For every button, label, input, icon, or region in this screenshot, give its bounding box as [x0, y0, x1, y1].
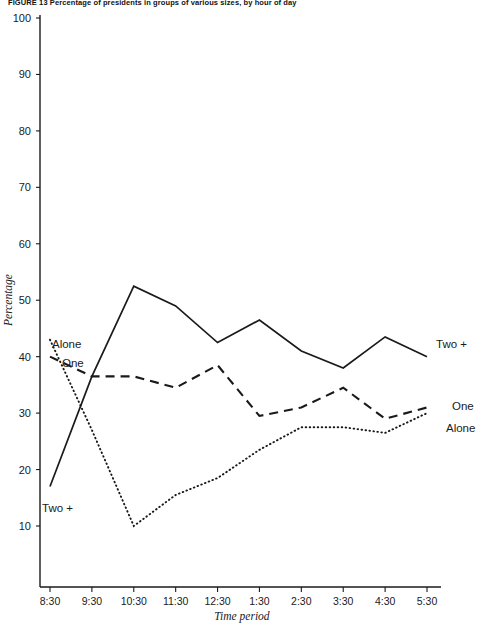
y-tick-label: 20 — [19, 464, 31, 476]
x-axis-title: Time period — [214, 610, 270, 623]
chart-svg: 100908070605040302010 8:309:3010:3011:30… — [0, 0, 484, 632]
series-line-two — [50, 286, 427, 486]
series-line-alone — [50, 340, 427, 526]
chart-plot-area: 100908070605040302010 8:309:3010:3011:30… — [0, 0, 484, 632]
x-tick-label: 10:30 — [121, 595, 147, 607]
y-tick-label: 100 — [13, 12, 31, 24]
y-axis-title: Percentage — [2, 274, 15, 327]
series-line-one — [50, 357, 427, 419]
x-tick-label: 5:30 — [417, 595, 438, 607]
x-tick-label: 2:30 — [291, 595, 312, 607]
x-tick-label: 9:30 — [82, 595, 103, 607]
y-tick-label: 90 — [19, 68, 31, 80]
series-label-one-right: One — [452, 400, 474, 412]
y-tick-label: 50 — [19, 294, 31, 306]
series-label-alone-left: Alone — [52, 338, 81, 350]
y-tick-label: 30 — [19, 407, 31, 419]
y-axis-ticks: 100908070605040302010 — [13, 12, 40, 532]
x-tick-label: 11:30 — [163, 595, 189, 607]
series-label-twoplus-right: Two + — [436, 338, 467, 350]
x-axis-ticks: 8:309:3010:3011:3012:301:302:303:304:305… — [40, 587, 438, 607]
y-tick-label: 60 — [19, 238, 31, 250]
y-tick-label: 70 — [19, 181, 31, 193]
series-label-one-left: One — [62, 357, 84, 369]
y-tick-label: 80 — [19, 125, 31, 137]
y-tick-label: 40 — [19, 351, 31, 363]
y-tick-label: 10 — [19, 520, 31, 532]
x-tick-label: 12:30 — [204, 595, 230, 607]
data-series — [50, 286, 427, 526]
x-tick-label: 4:30 — [375, 595, 396, 607]
series-label-alone-right: Alone — [446, 422, 475, 434]
x-tick-label: 1:30 — [249, 595, 270, 607]
x-tick-label: 3:30 — [333, 595, 354, 607]
x-tick-label: 8:30 — [40, 595, 61, 607]
axes — [40, 15, 441, 587]
series-label-twoplus-left: Two + — [42, 502, 73, 514]
